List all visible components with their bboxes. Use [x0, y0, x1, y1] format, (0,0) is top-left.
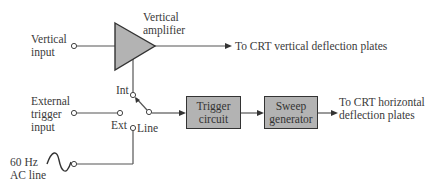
external-trigger-input-label: External trigger input — [31, 95, 70, 134]
ac-line-label: 60 Hz AC line — [10, 156, 46, 182]
switch-ext-label: Ext — [111, 119, 127, 132]
label-line: AC line — [10, 169, 46, 182]
label-line: External — [31, 95, 70, 108]
vertical-input-label: Vertical input — [31, 33, 67, 59]
vertical-output-label: To CRT vertical deflection plates — [235, 40, 387, 53]
label-line: Vertical — [31, 33, 67, 46]
label-line: trigger — [31, 108, 70, 121]
sweep-generator-block: Sweep generator — [264, 96, 318, 129]
switch-line-label: Line — [137, 122, 158, 135]
label-line: Trigger — [196, 100, 230, 113]
label-line: To CRT horizontal — [339, 96, 425, 109]
trigger-circuit-block: Trigger circuit — [186, 96, 241, 129]
label-line: input — [31, 46, 67, 59]
horizontal-output-label: To CRT horizontal deflection plates — [339, 96, 425, 122]
vertical-amplifier-label: Vertical amplifier — [143, 11, 185, 37]
label-line: 60 Hz — [10, 156, 46, 169]
label-line: amplifier — [143, 24, 185, 37]
label-line: Sweep — [276, 100, 307, 113]
diagram-wiring — [0, 0, 435, 187]
label-line: Vertical — [143, 11, 185, 24]
switch-int-label: Int — [116, 84, 129, 97]
label-line: generator — [269, 113, 312, 126]
label-line: deflection plates — [339, 109, 425, 122]
label-line: input — [31, 121, 70, 134]
label-line: circuit — [199, 113, 228, 126]
